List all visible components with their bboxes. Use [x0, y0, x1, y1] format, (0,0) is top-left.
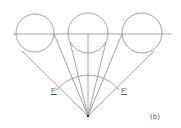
ray-outer-left [22, 51, 88, 116]
diagram-canvas [0, 0, 181, 128]
focal-label-left: F' [51, 88, 57, 95]
right-circle [122, 13, 162, 53]
panel-label: (b) [150, 114, 160, 121]
ray-outer-right [88, 51, 154, 116]
focal-label-right: F' [121, 88, 127, 95]
vertex-point [87, 115, 89, 117]
left-circle [16, 14, 54, 52]
